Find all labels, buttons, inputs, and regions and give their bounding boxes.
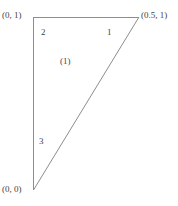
edge-label-top: 2: [41, 28, 46, 37]
edge-label-diagonal: 1: [107, 28, 112, 37]
edge-diagonal-line: [34, 17, 140, 190]
edge-label-left: 3: [39, 137, 44, 146]
vertex-label-top-right: (0.5, 1): [141, 11, 167, 20]
region-label-interior: (1): [60, 57, 71, 66]
geometry-figure: (0, 1) (0.5, 1) (0, 0) 2 1 3 (1): [0, 0, 178, 206]
vertex-label-top-left: (0, 1): [2, 11, 22, 20]
triangle-outline: [0, 0, 178, 206]
vertex-label-bottom-left: (0, 0): [2, 185, 22, 194]
